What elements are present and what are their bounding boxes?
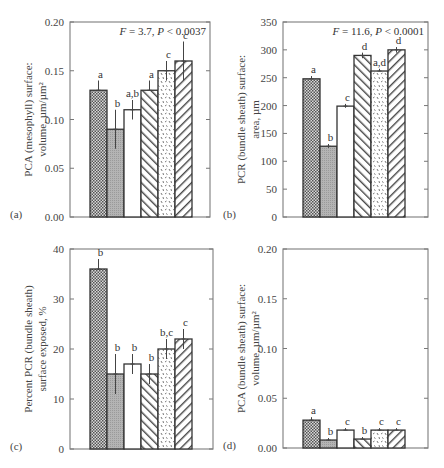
y-axis-label: Percent PCR (bundle sheath)surface expos…: [22, 285, 48, 413]
panel-c: 010203040Percent PCR (bundle sheath)surf…: [10, 243, 213, 455]
y-tick-label: 300: [261, 44, 278, 56]
y-tick-label: 50: [266, 183, 278, 195]
bar: [337, 430, 354, 448]
bar: [388, 430, 405, 448]
y-axis-label: PCR (bundle sheath) surface:area, µm: [235, 55, 261, 184]
y-tick-label: 0.15: [258, 293, 278, 305]
bar: [90, 90, 107, 217]
significance-letter: b: [98, 246, 104, 258]
y-tick-label: 350: [261, 16, 278, 28]
y-tick-label: 10: [53, 393, 65, 405]
significance-letter: c: [345, 91, 350, 103]
y-tick-label: 0.05: [45, 162, 65, 174]
panel-b: 050100150200250300350PCR (bundle sheath)…: [223, 16, 428, 223]
panel-letter: (c): [10, 440, 23, 453]
bar: [158, 71, 175, 217]
significance-letter: c: [396, 415, 401, 427]
significance-letter: d: [362, 40, 368, 52]
y-tick-label: 0.05: [258, 392, 278, 404]
bar: [124, 110, 141, 217]
panel-d: 0.000.050.100.150.20PCA (bundle sheath) …: [223, 243, 428, 454]
significance-letter: b: [328, 131, 334, 143]
bar: [320, 440, 337, 448]
y-tick-label: 0: [272, 211, 278, 223]
y-tick-label: 0.00: [258, 442, 278, 454]
y-tick-label: 0.20: [45, 16, 65, 28]
figure-canvas: 0.000.050.100.150.20PCA (mesophyll) surf…: [0, 0, 444, 468]
significance-letter: a: [149, 68, 154, 80]
stat-annotation: F = 11.6, P < 0.0001: [332, 25, 424, 37]
significance-letter: b,c: [160, 326, 173, 338]
panel-a: 0.000.050.100.150.20PCA (mesophyll) surf…: [10, 16, 210, 223]
panel-letter: (a): [10, 208, 23, 221]
y-tick-label: 20: [53, 343, 65, 355]
panel-letter: (d): [223, 439, 236, 452]
bar: [303, 79, 320, 217]
significance-letter: c: [345, 415, 350, 427]
y-tick-label: 40: [53, 243, 65, 255]
bar: [141, 374, 158, 449]
bar: [175, 339, 192, 449]
y-tick-label: 150: [261, 127, 278, 139]
significance-letter: a: [98, 68, 103, 80]
significance-letter: a: [311, 404, 316, 416]
bar: [141, 90, 158, 217]
plot-frame: [283, 249, 428, 448]
y-tick-label: 0.00: [45, 211, 65, 223]
y-tick-label: 30: [53, 293, 65, 305]
significance-letter: b: [149, 351, 155, 363]
y-tick-label: 0: [59, 443, 65, 455]
significance-letter: c: [183, 316, 188, 328]
y-tick-label: 200: [261, 100, 278, 112]
bar: [320, 146, 337, 217]
significance-letter: c: [183, 29, 188, 41]
significance-letter: a: [311, 63, 316, 75]
significance-letter: c: [166, 48, 171, 60]
significance-letter: d: [396, 34, 402, 46]
bar: [354, 439, 371, 448]
bar: [303, 420, 320, 448]
significance-letter: a,d: [373, 56, 387, 68]
y-tick-label: 100: [261, 155, 278, 167]
bar: [371, 430, 388, 448]
y-tick-label: 250: [261, 72, 278, 84]
y-tick-label: 0.15: [45, 65, 65, 77]
bar: [90, 269, 107, 449]
panel-letter: (b): [223, 208, 236, 221]
significance-letter: b: [115, 97, 121, 109]
significance-letter: a,b: [126, 87, 140, 99]
significance-letter: b: [115, 341, 121, 353]
bar: [175, 61, 192, 217]
bar: [388, 50, 405, 217]
bar: [158, 349, 175, 449]
significance-letter: b: [132, 341, 138, 353]
bar: [371, 71, 388, 217]
significance-letter: b: [328, 425, 334, 437]
bar: [124, 364, 141, 449]
significance-letter: b: [362, 424, 368, 436]
y-axis-label: PCA (mesophyll) surface:volume, µm/µm²: [22, 62, 48, 176]
bar: [337, 106, 354, 217]
bar: [354, 55, 371, 217]
stat-annotation: F = 3.7, P < 0.0037: [119, 25, 207, 37]
significance-letter: c: [379, 415, 384, 427]
y-tick-label: 0.20: [258, 243, 278, 255]
